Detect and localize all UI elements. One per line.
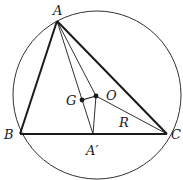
point-O <box>94 94 99 99</box>
point-G <box>80 98 85 103</box>
label-R: R <box>118 115 129 130</box>
side-AC <box>57 21 167 134</box>
median-AA-prime <box>57 21 93 134</box>
label-A: A <box>52 3 62 18</box>
geometry-diagram: A B C A′ G O R <box>0 0 183 180</box>
label-A-prime: A′ <box>85 143 98 158</box>
segment-AO <box>57 21 96 96</box>
label-B: B <box>3 127 14 142</box>
side-AB <box>20 21 57 134</box>
label-G: G <box>66 93 76 108</box>
label-C: C <box>171 127 181 142</box>
label-O: O <box>106 88 117 103</box>
segment-OA-prime <box>93 96 96 134</box>
